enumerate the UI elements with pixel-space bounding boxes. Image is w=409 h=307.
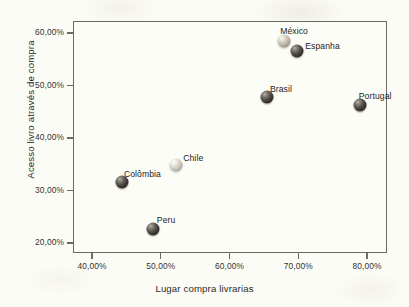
y-tick-label: 50,00% [35, 80, 64, 90]
x-axis-title: Lugar compra livrarias [0, 283, 409, 294]
x-tick-label: 70,00% [284, 261, 313, 271]
data-point-chile[interactable] [170, 158, 183, 171]
data-point-espanha[interactable] [291, 45, 304, 58]
x-tick-mark [366, 253, 367, 259]
y-tick-label: 20,00% [35, 237, 64, 247]
x-tick-mark [160, 253, 161, 259]
x-tick-label: 60,00% [215, 261, 244, 271]
scatter-chart-screenshot: Acesso livro através de compra 20,00%30,… [0, 0, 409, 307]
y-tick-label: 40,00% [35, 132, 64, 142]
x-tick-mark [91, 253, 92, 259]
x-tick-mark [229, 253, 230, 259]
y-tick-label: 60,00% [35, 27, 64, 37]
y-tick-label: 30,00% [35, 185, 64, 195]
x-tick-label: 40,00% [77, 261, 106, 271]
data-point-mexico[interactable] [278, 35, 291, 48]
data-point-label: México [280, 26, 308, 36]
x-tick-mark [298, 253, 299, 259]
y-axis-title: Acesso livro através de compra [25, 20, 36, 200]
x-tick-label: 80,00% [352, 261, 381, 271]
data-point-label: Colômbia [124, 169, 161, 179]
plot-area: MéxicoEspanhaBrasilPortugalChileColômbia… [73, 21, 387, 253]
data-point-label: Chile [183, 153, 203, 163]
x-tick-label: 50,00% [146, 261, 175, 271]
data-point-label: Portugal [359, 91, 392, 101]
data-point-label: Espanha [305, 41, 340, 51]
data-point-label: Peru [157, 215, 176, 225]
data-point-label: Brasil [270, 84, 292, 94]
